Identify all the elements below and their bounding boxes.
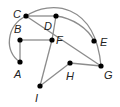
node-h [67, 60, 72, 65]
label-e: E [100, 36, 108, 48]
label-a: A [13, 68, 21, 80]
node-g [98, 63, 103, 68]
node-i [37, 83, 42, 88]
label-i: I [35, 92, 38, 104]
node-d [53, 13, 58, 18]
node-a [17, 59, 22, 64]
graph-diagram: A B C D E F G H I [0, 0, 120, 107]
nodes [17, 13, 103, 88]
labels: A B C D E F G H I [13, 8, 113, 104]
node-c [23, 13, 28, 18]
edge-c-f-g [26, 16, 101, 66]
label-g: G [104, 69, 113, 81]
node-b [17, 37, 22, 42]
label-b: B [14, 23, 21, 35]
edges [9, 8, 101, 86]
label-d: D [44, 20, 52, 32]
label-h: H [66, 70, 74, 82]
node-e [91, 38, 96, 43]
label-c: C [13, 8, 21, 20]
edge-f-i [40, 40, 52, 86]
node-f [49, 37, 54, 42]
